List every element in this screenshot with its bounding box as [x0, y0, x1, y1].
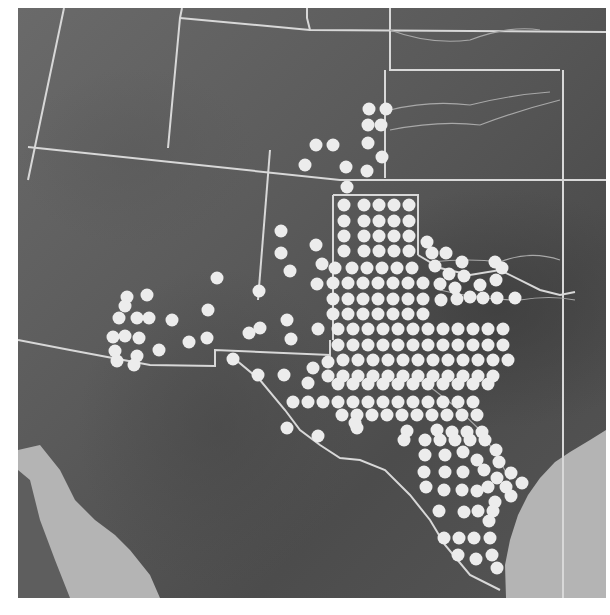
location-dot: [201, 332, 214, 345]
location-dot: [329, 262, 342, 275]
location-dot: [349, 417, 362, 430]
location-dot: [457, 446, 470, 459]
location-dot: [464, 291, 477, 304]
location-dot: [411, 409, 424, 422]
location-dot: [362, 323, 375, 336]
location-dot: [467, 396, 480, 409]
location-dot: [347, 396, 360, 409]
location-dot: [388, 230, 401, 243]
location-dot: [141, 289, 154, 302]
location-dot: [437, 323, 450, 336]
location-dot: [419, 434, 432, 447]
location-dot: [458, 270, 471, 283]
location-dot: [505, 490, 518, 503]
location-dot: [254, 322, 267, 335]
location-dot: [362, 119, 375, 132]
location-dot: [392, 323, 405, 336]
location-dot: [477, 292, 490, 305]
location-dot: [437, 396, 450, 409]
location-dot: [227, 353, 240, 366]
location-dot: [406, 262, 419, 275]
location-dot: [422, 339, 435, 352]
location-dot: [336, 409, 349, 422]
location-dot: [338, 230, 351, 243]
location-dot: [372, 308, 385, 321]
location-dot: [143, 312, 156, 325]
location-dot: [516, 477, 529, 490]
location-dot: [502, 354, 515, 367]
location-dot: [377, 339, 390, 352]
location-dot: [347, 378, 360, 391]
location-dot: [327, 277, 340, 290]
location-dot: [119, 300, 132, 313]
location-dot: [362, 339, 375, 352]
location-dot: [472, 505, 485, 518]
location-dot: [346, 262, 359, 275]
location-dot: [426, 409, 439, 422]
location-dot: [403, 230, 416, 243]
location-dot: [382, 354, 395, 367]
location-dot: [367, 354, 380, 367]
location-dot: [387, 277, 400, 290]
location-dot: [342, 293, 355, 306]
location-dot: [472, 354, 485, 367]
location-dot: [458, 506, 471, 519]
location-dot: [358, 215, 371, 228]
location-dot: [439, 449, 452, 462]
location-dot: [332, 396, 345, 409]
location-dot: [113, 312, 126, 325]
location-dot: [337, 354, 350, 367]
location-dot: [375, 119, 388, 132]
location-dot: [464, 434, 477, 447]
location-dot: [332, 323, 345, 336]
location-dot: [392, 378, 405, 391]
location-dot: [452, 378, 465, 391]
location-dot: [392, 339, 405, 352]
location-dot: [381, 409, 394, 422]
location-dot: [285, 333, 298, 346]
location-dot: [358, 245, 371, 258]
location-dot: [426, 247, 439, 260]
location-dot: [361, 262, 374, 275]
gulf-of-mexico: [505, 430, 606, 598]
location-dot: [363, 103, 376, 116]
location-dot: [496, 262, 509, 275]
location-dot: [332, 378, 345, 391]
location-dot: [422, 378, 435, 391]
location-dot: [422, 323, 435, 336]
location-dot: [467, 323, 480, 336]
location-dot: [457, 466, 470, 479]
location-dot: [403, 215, 416, 228]
location-dot: [342, 277, 355, 290]
location-dot: [427, 354, 440, 367]
location-dot: [338, 215, 351, 228]
location-dot: [402, 293, 415, 306]
location-dot: [362, 137, 375, 150]
location-dot: [275, 247, 288, 260]
location-dot: [252, 369, 265, 382]
location-dot: [412, 354, 425, 367]
location-dot: [490, 444, 503, 457]
location-dot: [422, 396, 435, 409]
location-dot: [372, 277, 385, 290]
location-dot: [491, 292, 504, 305]
location-dot: [407, 396, 420, 409]
location-dot: [486, 549, 499, 562]
location-dot: [438, 532, 451, 545]
location-dot: [434, 278, 447, 291]
location-dot: [478, 464, 491, 477]
location-dot: [387, 293, 400, 306]
location-dot: [373, 215, 386, 228]
relief-map: [18, 8, 606, 598]
location-dot: [327, 308, 340, 321]
location-dot: [317, 396, 330, 409]
location-dot: [484, 532, 497, 545]
location-dot: [388, 215, 401, 228]
location-dot: [183, 336, 196, 349]
location-dot: [342, 308, 355, 321]
location-dot: [402, 277, 415, 290]
location-dot: [490, 274, 503, 287]
location-dot: [358, 230, 371, 243]
location-dot: [275, 225, 288, 238]
location-dot: [396, 409, 409, 422]
